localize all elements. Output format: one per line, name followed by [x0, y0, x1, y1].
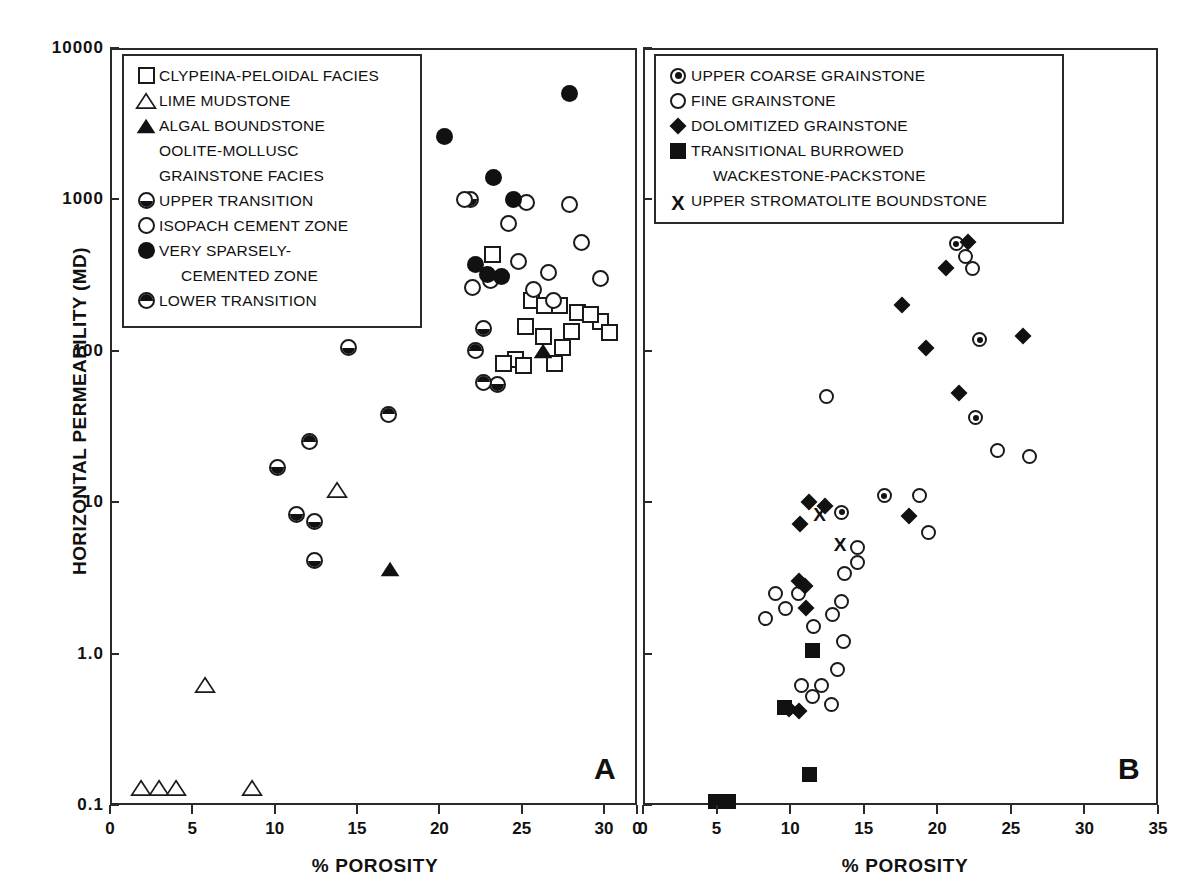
diamond-filled-icon — [665, 113, 691, 138]
legend-b-item-label: UPPER STROMATOLITE BOUNDSTONE — [691, 188, 987, 213]
legend-symbol-empty — [133, 263, 159, 288]
x-axis-tick-label: 10 — [250, 819, 300, 839]
circle-open-icon — [138, 217, 155, 234]
data-point — [601, 324, 618, 341]
legend-b-item-row: WACKESTONE-PACKSTONE — [665, 163, 1053, 188]
panel-b-letter: B — [1118, 752, 1140, 786]
data-point — [563, 323, 580, 340]
x-axis-tick — [636, 805, 638, 814]
x-axis-tick-label: 10 — [765, 819, 815, 839]
panel-b-x-axis-title: % POROSITY — [740, 855, 1070, 877]
data-point — [326, 481, 348, 499]
y-axis-tick — [643, 653, 652, 655]
data-point — [532, 342, 554, 360]
x-axis-tick — [1010, 805, 1012, 814]
legend-a-item-label: ISOPACH CEMENT ZONE — [159, 213, 348, 238]
x-axis-tick — [603, 805, 605, 814]
x-axis-tick-label: 20 — [912, 819, 962, 839]
y-axis-tick — [643, 804, 652, 806]
circle-half-top-icon — [133, 288, 159, 313]
legend-a-item-row: UPPER TRANSITION — [133, 188, 411, 213]
x-axis-tick — [109, 805, 111, 814]
legend-a-item-row: ALGAL BOUNDSTONE — [133, 113, 411, 138]
x-axis-tick-label: 25 — [986, 819, 1036, 839]
data-point — [545, 292, 562, 309]
x-mark-icon: X — [670, 193, 686, 209]
legend-b-item-label: FINE GRAINSTONE — [691, 88, 836, 113]
x-axis-tick-label: 30 — [1059, 819, 1109, 839]
data-point — [475, 374, 492, 391]
y-axis-tick — [110, 198, 119, 200]
legend-a-item-label: UPPER TRANSITION — [159, 188, 314, 213]
legend-a-item-label: ALGAL BOUNDSTONE — [159, 113, 325, 138]
legend-b-item-label: UPPER COARSE GRAINSTONE — [691, 63, 925, 88]
x-axis-tick-label: 25 — [497, 819, 547, 839]
y-axis-tick — [110, 350, 119, 352]
data-point — [965, 261, 980, 276]
data-point — [306, 513, 323, 530]
data-point — [475, 320, 492, 337]
x-axis-tick — [716, 805, 718, 814]
legend-a-item-label: LOWER TRANSITION — [159, 288, 317, 313]
data-point — [805, 643, 820, 658]
data-point — [510, 253, 527, 270]
y-axis-tick — [110, 47, 119, 49]
x-axis-tick-label: 5 — [167, 819, 217, 839]
square-filled-icon — [670, 143, 686, 159]
circle-open-icon — [665, 88, 691, 113]
legend-b-item-row: FINE GRAINSTONE — [665, 88, 1053, 113]
legend-b-item-label: DOLOMITIZED GRAINSTONE — [691, 113, 908, 138]
data-point — [837, 566, 852, 581]
data-point — [241, 779, 263, 797]
x-axis-tick — [356, 805, 358, 814]
x-axis-tick — [936, 805, 938, 814]
y-axis-tick-label: 1000 — [28, 189, 104, 209]
circle-filled-icon — [133, 238, 159, 263]
y-axis-tick — [643, 350, 652, 352]
legend-a-item-row: VERY SPARSELY- — [133, 238, 411, 263]
x-axis-tick — [274, 805, 276, 814]
data-point — [269, 459, 286, 476]
triangle-filled-icon — [133, 113, 159, 138]
square-open-icon — [138, 67, 155, 84]
x-axis-tick-label: 15 — [332, 819, 382, 839]
circle-half-top-icon — [138, 292, 155, 309]
data-point — [165, 779, 187, 797]
square-filled-icon — [665, 138, 691, 163]
y-axis-tick — [643, 47, 652, 49]
data-point — [495, 355, 512, 372]
x-axis-tick-label: 15 — [839, 819, 889, 839]
legend-a-item-row: CLYPEINA-PELOIDAL FACIES — [133, 63, 411, 88]
y-axis-tick-label: 1.0 — [28, 644, 104, 664]
data-point — [721, 794, 736, 809]
circle-open-icon — [133, 213, 159, 238]
y-axis-tick-label: 100 — [28, 341, 104, 361]
data-point — [484, 246, 501, 263]
data-point — [340, 339, 357, 356]
y-axis-tick — [643, 198, 652, 200]
panel-a-x-axis-title: % POROSITY — [210, 855, 540, 877]
legend-a-item-row: LIME MUDSTONE — [133, 88, 411, 113]
data-point — [921, 525, 936, 540]
data-point — [990, 443, 1005, 458]
legend-a-item-label: OOLITE-MOLLUSC — [159, 138, 299, 163]
figure-canvas: HORIZONTAL PERMEABILITY (MD) A CLYPEINA-… — [0, 0, 1190, 883]
circle-filled-icon — [138, 242, 155, 259]
triangle-open-icon — [135, 92, 157, 110]
panel-b-legend: UPPER COARSE GRAINSTONEFINE GRAINSTONEDO… — [654, 54, 1064, 224]
legend-a-item-label: CEMENTED ZONE — [159, 263, 318, 288]
x-axis-tick — [1083, 805, 1085, 814]
triangle-open-icon — [133, 88, 159, 113]
data-point — [758, 611, 773, 626]
x-axis-tick-label: 20 — [414, 819, 464, 839]
data-point — [540, 264, 557, 281]
data-point: X — [812, 505, 827, 520]
data-point — [768, 586, 783, 601]
data-point — [194, 676, 216, 694]
x-axis-tick — [191, 805, 193, 814]
y-axis-tick-label: 10 — [28, 492, 104, 512]
circle-half-bottom-icon — [138, 192, 155, 209]
legend-a-item-row: OOLITE-MOLLUSC — [133, 138, 411, 163]
legend-b-item-row: DOLOMITIZED GRAINSTONE — [665, 113, 1053, 138]
y-axis-tick — [110, 653, 119, 655]
